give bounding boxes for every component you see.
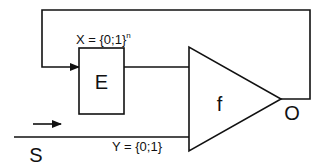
x-set-label: X = {0;1}n (76, 31, 131, 47)
function-block (189, 47, 281, 151)
feedback-diagram: E X = {0;1}n f S Y = {0;1} O (0, 0, 327, 167)
function-label: f (217, 93, 223, 115)
encoder-label: E (95, 71, 108, 93)
y-set-label: Y = {0;1} (112, 139, 163, 154)
x-set-superscript: n (126, 31, 130, 40)
x-set-base: X = {0;1} (76, 32, 127, 47)
output-label: O (284, 102, 300, 124)
input-label: S (29, 144, 42, 166)
